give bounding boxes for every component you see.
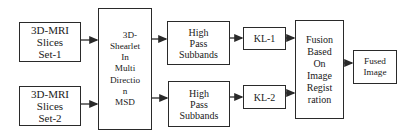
- node-label-line: Directio: [110, 75, 140, 86]
- node-label-line: On: [313, 58, 325, 70]
- node-label-line: High: [189, 88, 209, 99]
- node-label-line: Pass: [190, 38, 208, 49]
- node-label-line: Slices: [37, 36, 63, 48]
- node-label-line: Subbands: [179, 49, 218, 60]
- node-label-line: Image: [364, 67, 387, 79]
- node-label-line: Set-1: [38, 48, 61, 60]
- node-high-pass-subbands-1: High Pass Subbands: [167, 21, 230, 65]
- node-label-line: Fused: [364, 56, 386, 68]
- node-label-line: n: [123, 86, 128, 97]
- node-label-line: ration: [308, 94, 331, 106]
- node-label-line: 3D-: [113, 30, 137, 41]
- node-high-pass-subbands-2: High Pass Subbands: [168, 81, 230, 127]
- node-label-line: Image: [307, 70, 332, 82]
- node-kl-2: KL-2: [243, 85, 286, 109]
- node-label-line: Slices: [37, 100, 63, 112]
- node-label-line: Set-2: [38, 112, 61, 124]
- node-fusion-image-registration: Fusion Based On Image Regist ration: [295, 20, 344, 119]
- node-label-line: Subbands: [180, 110, 219, 121]
- node-label-line: MSD: [115, 97, 135, 108]
- node-label-line: Regist: [307, 82, 333, 94]
- node-mri-slices-set-2: 3D-MRI Slices Set-2: [19, 86, 81, 126]
- node-label-line: Based: [307, 46, 331, 58]
- node-label-line: Shearlet: [110, 41, 140, 52]
- node-fused-image: Fused Image: [353, 50, 397, 84]
- node-label-line: KL-2: [254, 92, 276, 103]
- node-label-line: 3D-MRI: [31, 24, 69, 36]
- node-3d-shearlet-msd: 3D- Shearlet In Multi Directio n MSD: [98, 8, 152, 130]
- node-label-line: Fusion: [306, 34, 333, 46]
- node-label-line: KL-1: [254, 33, 276, 44]
- node-label-line: In: [121, 52, 129, 63]
- node-label-line: Pass: [190, 99, 208, 110]
- node-label-line: High: [189, 27, 209, 38]
- node-label-line: Multi: [115, 63, 135, 74]
- node-label-line: 3D-MRI: [31, 88, 69, 100]
- node-kl-1: KL-1: [243, 27, 286, 50]
- node-mri-slices-set-1: 3D-MRI Slices Set-1: [19, 22, 81, 62]
